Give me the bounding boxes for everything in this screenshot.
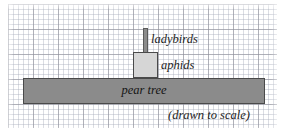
label-aphids: aphids	[161, 59, 194, 72]
label-ladybirds: ladybirds	[151, 33, 198, 46]
pyramid-figure: ladybirds aphids pear tree (drawn to sca…	[0, 0, 285, 140]
bar-ladybirds	[143, 28, 148, 53]
scale-note-caption: (drawn to scale)	[168, 109, 250, 122]
label-pear-tree: pear tree	[23, 84, 265, 97]
bar-aphids	[133, 52, 158, 78]
